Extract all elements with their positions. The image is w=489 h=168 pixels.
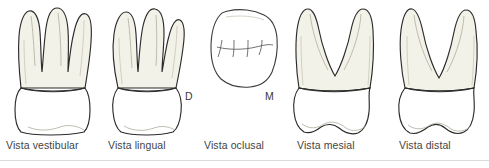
tooth-view-mesial <box>288 0 382 140</box>
oclusal-illustration <box>196 0 292 140</box>
caption-vestibular: Vista vestibular <box>6 139 79 151</box>
orientation-label-distal: D <box>185 90 193 102</box>
distal-illustration <box>393 0 485 140</box>
caption-mesial: Vista mesial <box>297 139 355 151</box>
caption-lingual: Vista lingual <box>108 139 166 151</box>
caption-distal: Vista distal <box>399 139 451 151</box>
tooth-view-vestibular <box>8 0 96 140</box>
tooth-view-distal <box>393 0 485 140</box>
mesial-illustration <box>288 0 382 140</box>
vestibular-illustration <box>8 0 96 140</box>
lingual-illustration <box>104 0 190 140</box>
orientation-label-mesial: M <box>265 90 274 102</box>
tooth-view-lingual <box>104 0 190 140</box>
caption-oclusal: Vista oclusal <box>204 139 264 151</box>
tooth-view-oclusal <box>196 0 292 140</box>
dental-anatomy-figure: Vista vestibular Vista lingual <box>0 0 489 168</box>
bottom-divider <box>0 160 489 161</box>
